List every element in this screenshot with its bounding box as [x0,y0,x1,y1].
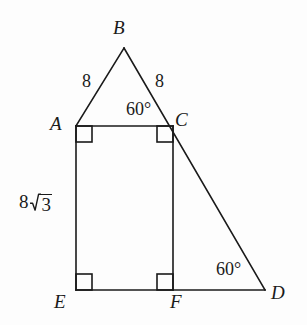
radical-coefficient: 8 [19,192,29,211]
right-angle-F [157,274,173,290]
right-angles-group [76,126,173,290]
radical-group: 3 [30,192,53,215]
radicand-value: 3 [41,194,53,215]
figure-canvas [0,0,307,325]
right-angle-A [76,126,92,142]
vertex-label-E: E [54,292,66,311]
segments-group [76,48,265,290]
segment-BD [124,48,265,290]
vertex-label-A: A [50,114,62,133]
vertex-label-C: C [175,110,188,129]
angle-label-bca: 60° [126,100,151,118]
right-angle-E [76,274,92,290]
radical-sign-icon [30,193,41,211]
vertex-label-F: F [170,292,182,311]
side-length-bc: 8 [155,72,164,90]
side-length-ae: 8 3 [19,192,52,215]
vertex-label-B: B [113,18,125,37]
side-length-ab: 8 [82,72,91,90]
vertex-label-D: D [271,283,285,302]
geometry-figure: B A C E F D 8 8 60° 60° 8 3 [0,0,307,325]
angle-label-fdc: 60° [216,260,241,278]
